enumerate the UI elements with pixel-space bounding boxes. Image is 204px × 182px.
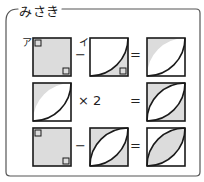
lens-outer-regions-shaded xyxy=(90,128,128,166)
full-shaded-square-with-right-angle-marks xyxy=(33,38,71,76)
lens-inner-shaded xyxy=(147,128,185,166)
row1-operator-minus: − xyxy=(75,47,86,62)
quarter-circle-upper-sliver-shaded xyxy=(147,38,185,76)
row2-operator-equals: = xyxy=(130,93,141,108)
quarter-circle-upper-sliver-shaded xyxy=(33,83,71,121)
row3-operator-minus: − xyxy=(75,138,86,153)
worksheet-panel: みさき ア イ − = × 2 = − = xyxy=(0,0,204,182)
quarter-circle-lower-region-shaded xyxy=(90,38,128,76)
row3-operator-equals: = xyxy=(130,138,141,153)
lens-outer-regions-shaded xyxy=(147,83,185,121)
full-shaded-square-with-right-angle-marks xyxy=(33,128,71,166)
figure-diagram xyxy=(0,0,204,182)
figure-label-a: ア xyxy=(22,34,32,49)
row2-operator-times-two: × 2 xyxy=(78,93,101,108)
row1-operator-equals: = xyxy=(130,47,141,62)
